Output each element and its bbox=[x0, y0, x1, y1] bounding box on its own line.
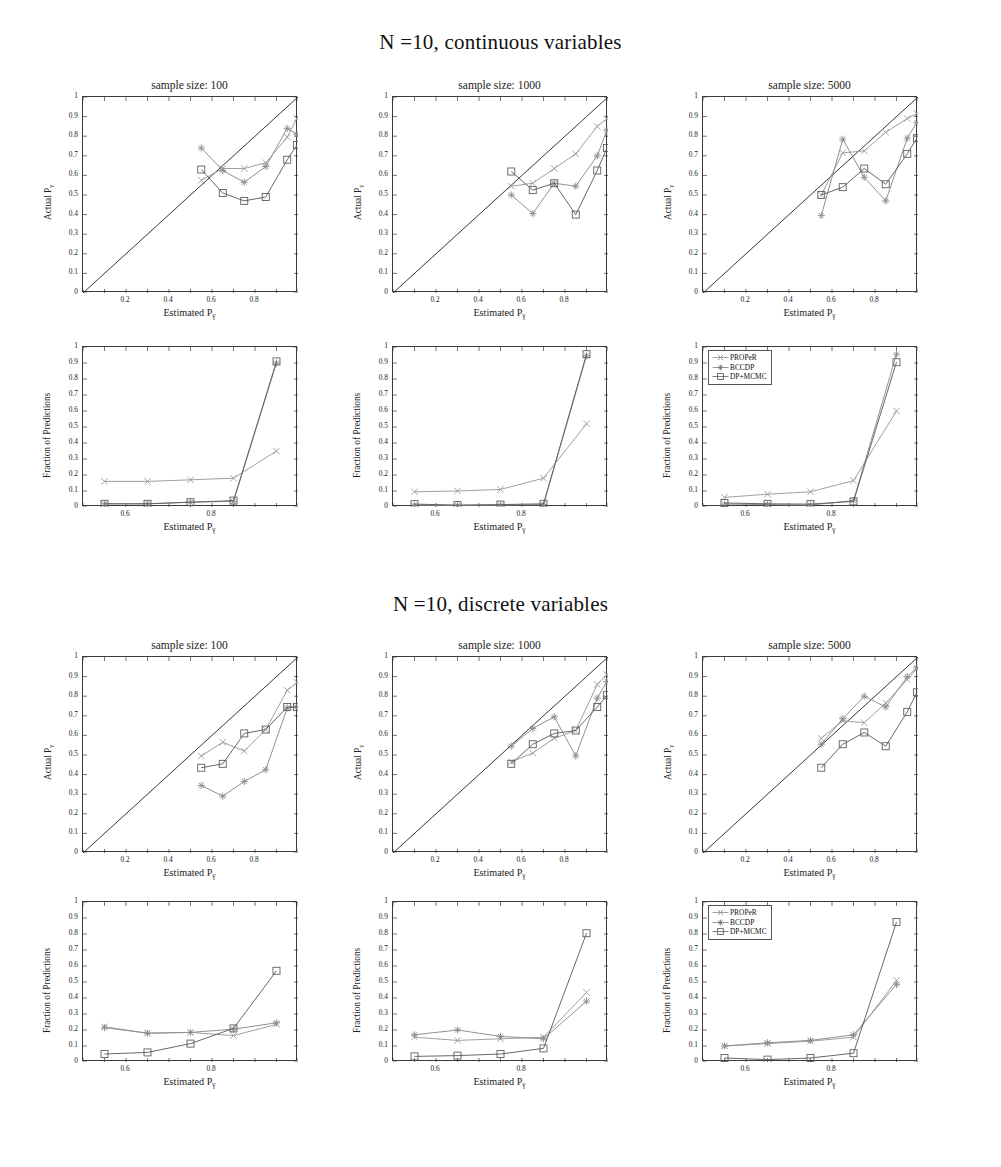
x-tick-label: 0.8 bbox=[239, 295, 269, 304]
plot-area bbox=[82, 656, 297, 852]
y-tick-label: 0 bbox=[370, 847, 388, 856]
series-bccdp bbox=[101, 1019, 280, 1037]
x-tick-label: 0.4 bbox=[463, 855, 493, 864]
y-tick-label: 1 bbox=[370, 91, 388, 100]
series-bccdp bbox=[198, 125, 298, 186]
y-tick-label: 0.5 bbox=[680, 421, 698, 430]
y-tick-label: 1 bbox=[60, 91, 78, 100]
x-axis-label: Estimated Pγ bbox=[82, 1076, 297, 1089]
x-tick-label: 0.4 bbox=[463, 295, 493, 304]
x-tick-label: 0.6 bbox=[730, 509, 760, 518]
y-tick-label: 1 bbox=[680, 651, 698, 660]
x-axis-label: Estimated Pγ bbox=[702, 1076, 917, 1089]
plot-area bbox=[392, 656, 607, 852]
y-tick-label: 0.4 bbox=[680, 992, 698, 1001]
panel-title: sample size: 1000 bbox=[392, 639, 607, 651]
y-tick-label: 0.7 bbox=[370, 710, 388, 719]
y-tick-label: 0.8 bbox=[60, 373, 78, 382]
legend-label: PROPeR bbox=[729, 353, 757, 362]
y-tick-label: 0 bbox=[680, 847, 698, 856]
panel-cont-100-fraction: 00.10.20.30.40.50.60.70.80.910.60.8Fract… bbox=[82, 346, 297, 506]
series-dpmcmc bbox=[198, 703, 298, 771]
legend-marker-square-icon bbox=[712, 372, 729, 381]
y-axis-label: Actual Pγ bbox=[43, 185, 54, 220]
x-tick-label: 0.6 bbox=[506, 855, 536, 864]
x-tick-label: 0.2 bbox=[420, 295, 450, 304]
y-axis-label: Actual Pγ bbox=[663, 745, 674, 780]
plot-area bbox=[702, 96, 917, 292]
y-tick-label: 0.4 bbox=[370, 769, 388, 778]
series-dpmcmc bbox=[508, 144, 608, 218]
y-tick-label: 0 bbox=[370, 501, 388, 510]
x-tick-label: 0.8 bbox=[816, 509, 846, 518]
y-tick-label: 0.8 bbox=[370, 130, 388, 139]
y-tick-label: 0 bbox=[680, 501, 698, 510]
legend-item: PROPeR bbox=[712, 908, 767, 918]
y-tick-label: 0.8 bbox=[60, 928, 78, 937]
panel-disc-5000-fraction: 00.10.20.30.40.50.60.70.80.910.60.8Fract… bbox=[702, 901, 917, 1061]
y-tick-label: 0.3 bbox=[370, 228, 388, 237]
y-tick-label: 0.7 bbox=[680, 389, 698, 398]
section-title-continuous: N =10, continuous variables bbox=[0, 30, 1001, 55]
panel-title: sample size: 5000 bbox=[702, 79, 917, 91]
series-bccdp bbox=[508, 127, 608, 218]
panel-disc-1000-fraction: 00.10.20.30.40.50.60.70.80.910.60.8Fract… bbox=[392, 901, 607, 1061]
y-tick-label: 0.6 bbox=[680, 729, 698, 738]
x-tick-label: 0.6 bbox=[730, 1064, 760, 1073]
x-tick-label: 0.8 bbox=[506, 509, 536, 518]
y-tick-label: 0.3 bbox=[370, 788, 388, 797]
y-tick-label: 0.6 bbox=[370, 169, 388, 178]
plot-area bbox=[392, 96, 607, 292]
y-tick-label: 0.2 bbox=[370, 1024, 388, 1033]
y-tick-label: 0.4 bbox=[60, 769, 78, 778]
y-tick-label: 0 bbox=[60, 287, 78, 296]
x-tick-label: 0.6 bbox=[110, 1064, 140, 1073]
x-tick-label: 0.8 bbox=[816, 1064, 846, 1073]
legend-item: DP+MCMC bbox=[712, 927, 767, 937]
y-tick-label: 0.4 bbox=[60, 209, 78, 218]
y-tick-label: 1 bbox=[60, 896, 78, 905]
y-tick-label: 0.3 bbox=[370, 453, 388, 462]
y-tick-label: 0.9 bbox=[680, 912, 698, 921]
series-dpmcmc bbox=[101, 358, 280, 507]
y-tick-label: 0.1 bbox=[680, 485, 698, 494]
legend-marker-star-icon bbox=[712, 918, 729, 927]
panel-disc-5000-calibration: sample size: 500000.10.20.30.40.50.60.70… bbox=[702, 656, 917, 852]
y-tick-label: 0.3 bbox=[680, 788, 698, 797]
y-tick-label: 0.9 bbox=[370, 111, 388, 120]
series-bccdp bbox=[508, 678, 608, 760]
y-axis-label: Fraction of Predictions bbox=[662, 948, 672, 1033]
plot-area bbox=[702, 656, 917, 852]
y-tick-label: 1 bbox=[370, 341, 388, 350]
y-tick-label: 0.4 bbox=[60, 992, 78, 1001]
x-tick-label: 0.6 bbox=[420, 1064, 450, 1073]
panel-disc-100-calibration: sample size: 10000.10.20.30.40.50.60.70.… bbox=[82, 656, 297, 852]
x-tick-label: 0.6 bbox=[816, 855, 846, 864]
y-tick-label: 0.3 bbox=[60, 1008, 78, 1017]
panel-cont-5000-calibration: sample size: 500000.10.20.30.40.50.60.70… bbox=[702, 96, 917, 292]
y-tick-label: 0.4 bbox=[370, 209, 388, 218]
series-dpmcmc bbox=[198, 142, 298, 205]
x-axis-label: Estimated Pγ bbox=[392, 307, 607, 320]
y-tick-label: 0.8 bbox=[680, 130, 698, 139]
y-axis-label: Fraction of Predictions bbox=[42, 393, 52, 478]
y-tick-label: 0.3 bbox=[60, 228, 78, 237]
y-axis-label: Fraction of Predictions bbox=[662, 393, 672, 478]
series-dpmcmc bbox=[101, 967, 280, 1057]
y-tick-label: 0 bbox=[60, 847, 78, 856]
x-tick-label: 0.6 bbox=[196, 295, 226, 304]
y-tick-label: 0.9 bbox=[60, 357, 78, 366]
x-tick-label: 0.8 bbox=[239, 855, 269, 864]
series-bccdp bbox=[101, 359, 280, 507]
x-axis-label: Estimated Pγ bbox=[702, 521, 917, 534]
legend-marker-x-icon bbox=[712, 353, 729, 362]
y-tick-label: 0.6 bbox=[60, 405, 78, 414]
y-tick-label: 0.9 bbox=[60, 671, 78, 680]
panel-cont-100-calibration: sample size: 10000.10.20.30.40.50.60.70.… bbox=[82, 96, 297, 292]
series-bccdp bbox=[411, 998, 590, 1043]
series-proper bbox=[818, 110, 918, 198]
y-tick-label: 1 bbox=[680, 341, 698, 350]
series-bccdp bbox=[198, 703, 298, 799]
y-tick-label: 0.7 bbox=[370, 150, 388, 159]
legend-item: DP+MCMC bbox=[712, 372, 767, 382]
